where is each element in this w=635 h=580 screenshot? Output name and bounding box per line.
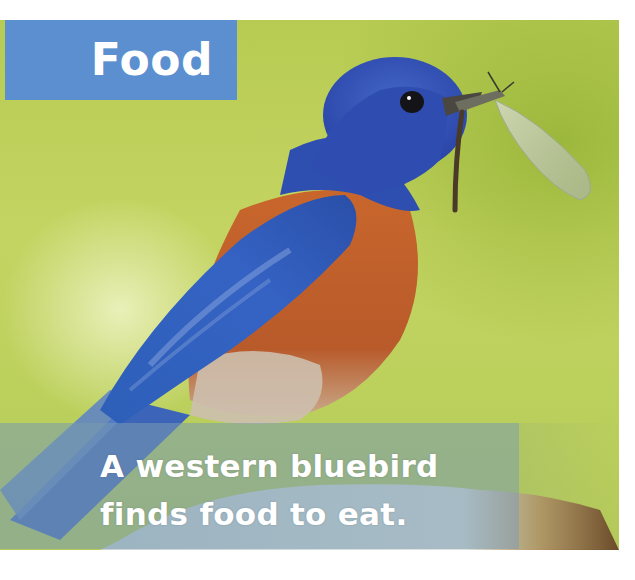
caption-band-fade: [519, 423, 619, 549]
section-title: Food: [91, 38, 213, 82]
photo-caption: A western bluebird finds food to eat.: [100, 442, 520, 538]
caption-line-2: finds food to eat.: [100, 490, 520, 538]
caption-line-1: A western bluebird: [100, 442, 520, 490]
section-title-box: Food: [5, 20, 237, 100]
